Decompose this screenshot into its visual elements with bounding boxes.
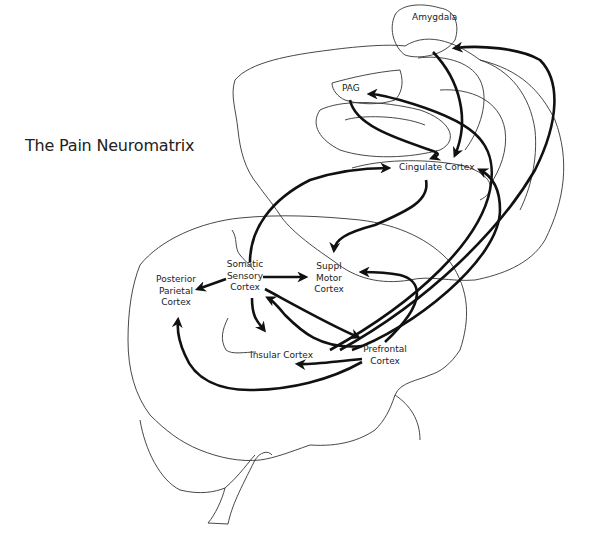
label-line: Motor (312, 273, 346, 285)
label-amygdala: Amygdala (412, 12, 457, 24)
label-posterior-parietal-cortex: Posterior Parietal Cortex (155, 274, 197, 309)
label-cingulate-cortex: Cingulate Cortex (399, 162, 475, 174)
medial-brain-outline (233, 5, 564, 282)
label-line: Cortex (155, 297, 197, 309)
label-somatic-sensory-cortex: Somatic Sensory Cortex (226, 259, 264, 294)
label-prefrontal-cortex: Prefrontal Cortex (362, 344, 408, 367)
diagram-title: The Pain Neuromatrix (25, 136, 194, 155)
label-suppl-motor-cortex: Suppl Motor Cortex (312, 261, 346, 296)
label-line: Prefrontal (362, 344, 408, 356)
label-line: Cortex (312, 284, 346, 296)
label-line: Somatic (226, 259, 264, 271)
lateral-brain-outline (128, 216, 467, 524)
label-line: Cortex (362, 356, 408, 368)
label-line: Sensory (226, 271, 264, 283)
pain-neuromatrix-diagram (0, 0, 602, 543)
label-line: Posterior (155, 274, 197, 286)
label-pag: PAG (342, 83, 360, 95)
label-insular-cortex: Insular Cortex (250, 350, 313, 362)
label-line: Suppl (312, 261, 346, 273)
label-line: Parietal (155, 286, 197, 298)
label-line: Cortex (226, 282, 264, 294)
